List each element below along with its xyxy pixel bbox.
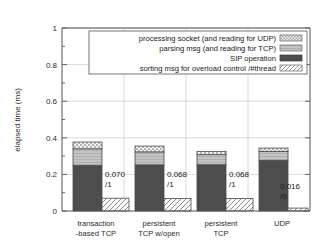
legend: processing socket (and reading for UDP) … xyxy=(89,31,307,74)
cat-label-2-line-0: persistent xyxy=(205,219,239,228)
annotation-value-3: 0.016 xyxy=(280,182,301,191)
annotation-value-1: 0.068 xyxy=(167,170,188,179)
bar-segment-sorting xyxy=(164,199,191,211)
legend-swatch-sip-operation xyxy=(280,55,302,61)
annotation-value-2: 0.068 xyxy=(229,170,250,179)
y-axis-title: elapsed time (ms) xyxy=(13,88,22,152)
y-tick-label-0: 0 xyxy=(53,207,58,216)
cat-label-2-line-1: TCP xyxy=(213,229,228,238)
y-tick-label-1: 0.2 xyxy=(46,170,58,179)
bar-segment-parsing xyxy=(73,149,102,165)
bar-segment-socket xyxy=(259,148,288,151)
stacked-bar-chart: 0.070 /1 0.068 /1 0.068 /1 xyxy=(0,0,320,250)
legend-swatch-parsing-msg xyxy=(280,45,302,51)
annotation-thread-3: /0 xyxy=(280,192,287,201)
cat-label-0-line-0: transaction xyxy=(77,219,114,228)
legend-swatch-sorting-msg xyxy=(280,65,302,71)
legend-label-2: SIP operation xyxy=(230,54,276,63)
y-tick-label-3: 0.6 xyxy=(46,97,58,106)
legend-swatch-processing-socket xyxy=(280,35,302,41)
bar-segment-parsing xyxy=(197,155,226,165)
cat-label-1-line-1: TCP w/open xyxy=(138,229,180,238)
bar-segment-parsing xyxy=(135,152,164,165)
annotation-thread-0: /1 xyxy=(105,180,112,189)
bar-segment-socket xyxy=(135,146,164,152)
bar-segment-sorting xyxy=(102,198,129,211)
annotation-thread-1: /1 xyxy=(167,180,174,189)
x-axis-category-labels: transaction -based TCP persistent TCP w/… xyxy=(76,219,290,238)
annotation-thread-2: /1 xyxy=(229,180,236,189)
y-tick-label-5: 1 xyxy=(53,24,58,33)
bar-segment-sorting xyxy=(226,199,253,211)
cat-label-1-line-0: persistent xyxy=(143,219,177,228)
chart-container: 0.070 /1 0.068 /1 0.068 /1 xyxy=(0,0,320,250)
y-tick-label-2: 0.4 xyxy=(46,134,58,143)
bar-segment-sip xyxy=(197,165,226,211)
cat-label-3-line-0: UDP xyxy=(274,219,290,228)
bar-segment-sip xyxy=(135,165,164,211)
cat-label-0-line-1: -based TCP xyxy=(76,229,116,238)
legend-label-0: processing socket (and reading for UDP) xyxy=(139,34,277,43)
bar-segment-socket xyxy=(73,142,102,149)
annotation-value-0: 0.070 xyxy=(105,170,126,179)
bar-segment-parsing xyxy=(259,152,288,161)
y-axis-tick-labels: 0 0.2 0.4 0.6 0.8 1 xyxy=(46,24,58,216)
legend-label-1: parsing msg (and reading for TCP) xyxy=(159,44,276,53)
bar-segment-sip xyxy=(73,165,102,211)
y-tick-label-4: 0.8 xyxy=(46,61,58,70)
bar-segment-socket xyxy=(197,151,226,154)
legend-label-3: sorting msg for overload control /#threa… xyxy=(140,64,276,73)
